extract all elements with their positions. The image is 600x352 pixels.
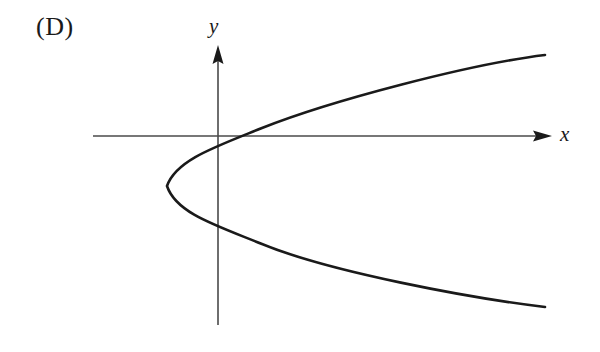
figure-canvas: (D) y x bbox=[0, 0, 600, 352]
parabola-diagram bbox=[0, 0, 600, 352]
x-axis-label: x bbox=[560, 124, 569, 145]
parabola-curve bbox=[167, 55, 545, 307]
y-axis-label: y bbox=[209, 16, 218, 37]
